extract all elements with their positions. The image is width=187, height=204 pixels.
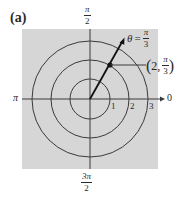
axis-label-pi-over-2: π 2	[84, 5, 91, 26]
radius-tick-2: 2	[130, 102, 135, 111]
radius-tick-1: 1	[111, 102, 116, 111]
frac-denominator: 2	[84, 183, 89, 193]
frac-denominator: 3	[163, 66, 168, 76]
frac-denominator: 2	[85, 16, 90, 26]
frac-denominator: 3	[144, 39, 149, 49]
frac-numerator: 3π	[81, 172, 92, 183]
point-label: ( 2, π 3 )	[146, 55, 174, 76]
ray-angle-label: θ = π 3	[127, 28, 149, 49]
equals-sign: =	[134, 33, 140, 44]
axis-label-pi: π	[13, 93, 18, 103]
polar-axis-arrowhead	[160, 97, 165, 102]
frac-numerator: π	[162, 55, 169, 66]
ray-angle-fraction: π 3	[143, 28, 150, 49]
point-radius: 2,	[151, 60, 160, 72]
frac-numerator: π	[143, 28, 150, 39]
axis-label-zero: 0	[167, 93, 172, 103]
theta-symbol: θ	[127, 33, 132, 44]
point-angle-fraction: π 3	[162, 55, 169, 76]
radius-tick-3: 3	[149, 102, 154, 111]
panel-label: (a)	[10, 11, 26, 25]
close-paren: )	[169, 58, 174, 74]
frac-numerator: π	[84, 5, 91, 16]
axis-label-3pi-over-2: 3π 2	[81, 172, 92, 193]
polar-grid	[0, 0, 187, 204]
